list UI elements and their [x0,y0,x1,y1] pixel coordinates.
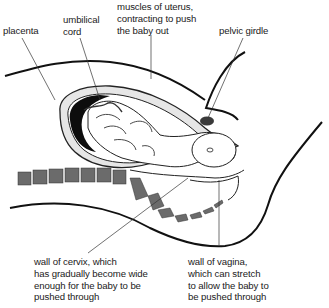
label-line: cord [63,26,99,38]
label-wall-of-vagina: wall of vagina, which can stretch to all… [188,256,269,303]
label-line: pelvic girdle [219,25,268,37]
label-line: has gradually become wide [34,268,148,280]
label-muscles-of-uterus: muscles of uterus, contracting to push t… [117,1,196,36]
label-line: be pushed through [188,291,269,303]
pelvic-girdle [200,117,214,126]
leader-pelvic-girdle [208,38,243,118]
label-wall-of-cervix: wall of cervix, which has gradually beco… [34,256,148,303]
label-line: umbilical [63,14,99,26]
label-line: the baby out [117,25,196,37]
label-line: enough for the baby to be [34,280,148,292]
label-line: wall of vagina, [188,256,269,268]
baby-head [192,133,236,167]
label-line: which can stretch [188,268,269,280]
label-line: contracting to push [117,13,196,25]
birth-canal [130,170,244,178]
label-line: pushed through [34,291,148,303]
birth-diagram: placenta umbilical cord muscles of uteru… [0,0,329,308]
label-pelvic-girdle: pelvic girdle [219,25,268,37]
vaginal-wall [190,176,239,200]
label-line: wall of cervix, which [34,256,148,268]
label-placenta: placenta [3,25,38,37]
label-line: placenta [3,25,38,37]
label-line: muscles of uterus, [117,1,196,13]
label-umbilical-cord: umbilical cord [63,14,99,38]
label-line: to allow the baby to [188,280,269,292]
